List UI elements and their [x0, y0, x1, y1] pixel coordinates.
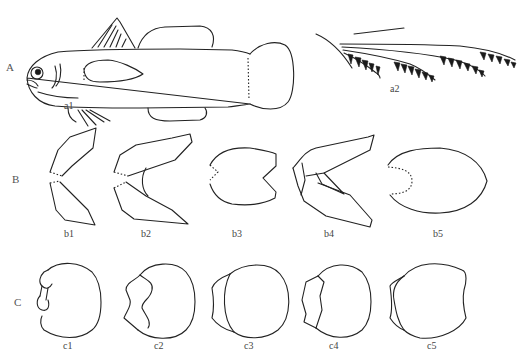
figure-canvas: A B C a1 a2 b1 b2 b3 b4 b5 c1 c2 c3 c4 c… — [0, 0, 529, 360]
panel-label-b4: b4 — [324, 229, 334, 239]
gill-drawing-a2 — [316, 28, 516, 82]
panel-label-c2: c2 — [154, 341, 163, 351]
scale-c1 — [37, 263, 101, 337]
panel-label-b2: b2 — [141, 229, 151, 239]
panel-label-a2: a2 — [390, 84, 399, 94]
scale-c5 — [390, 264, 466, 339]
panel-label-c5: c5 — [427, 341, 436, 351]
panel-label-c1: c1 — [63, 341, 72, 351]
row-label-c: C — [14, 297, 21, 308]
panel-label-a1: a1 — [64, 101, 73, 111]
panel-label-b3: b3 — [232, 229, 242, 239]
panel-label-b1: b1 — [64, 229, 74, 239]
scale-c2 — [124, 264, 195, 338]
panel-label-c3: c3 — [244, 341, 253, 351]
fin-b1 — [50, 128, 96, 225]
scale-c3 — [212, 265, 289, 338]
fin-b5 — [388, 148, 487, 213]
row-label-a: A — [6, 62, 14, 73]
figure-drawings — [0, 0, 529, 360]
panel-label-b5: b5 — [433, 229, 443, 239]
row-label-b: B — [12, 174, 19, 185]
scale-c4 — [302, 265, 371, 337]
fin-b4 — [293, 135, 374, 227]
panel-label-c4: c4 — [329, 341, 338, 351]
fin-b3 — [210, 148, 276, 205]
fin-b2 — [114, 134, 192, 224]
